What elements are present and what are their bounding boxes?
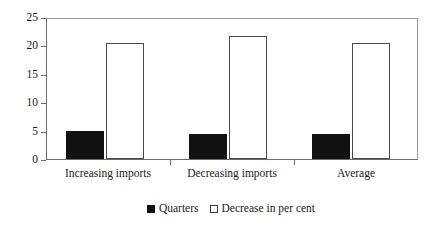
x-axis-separator-tick-2 [294,160,295,165]
bar-quarters-decreasing-imports [189,134,227,159]
legend-item-decrease-in-per-cent: Decrease in per cent [210,203,316,215]
legend-item-quarters: Quarters [147,203,199,215]
y-tick-label-0: 0 [32,154,38,166]
filled-square-icon [147,205,155,213]
y-tick-label-10: 10 [27,97,39,109]
legend-label-decrease-in-per-cent: Decrease in per cent [222,203,316,215]
y-tick-label-15: 15 [27,69,39,81]
x-category-label-decreasing-imports: Decreasing imports [187,168,277,180]
bar-decrease-in-per-cent-average [352,43,390,159]
hollow-square-icon [210,205,218,213]
y-tick-label-20: 20 [27,41,39,53]
bar-chart: 25 20 15 10 5 0 Increasing imports Decre… [0,0,440,234]
y-tick-label-5: 5 [32,126,38,138]
bar-quarters-increasing-imports [66,131,104,159]
x-axis-separator-tick-1 [170,160,171,165]
plot-area [46,18,418,160]
bar-quarters-average [312,134,350,159]
x-category-label-average: Average [337,168,375,180]
y-tick-mark-0 [41,160,46,161]
y-axis: 25 20 15 10 5 0 [0,0,38,234]
bar-decrease-in-per-cent-decreasing-imports [229,36,267,159]
y-tick-label-25: 25 [27,12,39,24]
bar-decrease-in-per-cent-increasing-imports [106,43,144,159]
legend-label-quarters: Quarters [159,203,199,215]
chart-legend: Quarters Decrease in per cent [0,203,440,215]
x-category-label-increasing-imports: Increasing imports [65,168,151,180]
